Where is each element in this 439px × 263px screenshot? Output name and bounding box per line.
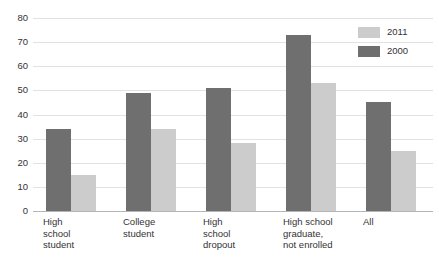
y-axis: 01020304050607080 [0, 18, 28, 211]
bar-2011 [391, 151, 416, 211]
x-axis-category-label: All [363, 216, 439, 228]
bar-2000 [286, 35, 311, 211]
x-axis: High school studentCollege studentHigh s… [33, 216, 433, 261]
bar-2011 [231, 143, 256, 211]
bar-2011 [311, 83, 336, 211]
axis-baseline [33, 211, 433, 212]
y-axis-tick-label: 10 [0, 182, 28, 192]
legend-item[interactable]: 2011 [358, 24, 436, 40]
x-axis-category-label: High school graduate, not enrolled [283, 216, 359, 251]
legend-swatch-icon [358, 46, 380, 57]
legend-item-label: 2011 [387, 27, 407, 37]
legend-item-label: 2000 [387, 46, 408, 56]
bar-chart: 01020304050607080 High school studentCol… [0, 0, 439, 263]
y-axis-tick-label: 20 [0, 158, 28, 168]
y-axis-tick-label: 30 [0, 134, 28, 144]
y-axis-tick-label: 80 [0, 13, 28, 23]
x-axis-category-label: High school student [43, 216, 119, 251]
y-axis-tick-label: 60 [0, 62, 28, 72]
bar-2000 [206, 88, 231, 211]
legend: 20112000 [358, 24, 436, 62]
bar-2000 [126, 93, 151, 211]
y-axis-tick-label: 0 [0, 206, 28, 216]
y-axis-tick-label: 40 [0, 110, 28, 120]
y-axis-tick-label: 50 [0, 86, 28, 96]
legend-swatch-icon [358, 27, 380, 38]
x-axis-category-label: College student [123, 216, 199, 239]
bar-2000 [46, 129, 71, 211]
legend-item[interactable]: 2000 [358, 43, 436, 59]
bar-2000 [366, 102, 391, 211]
x-axis-category-label: High school dropout [203, 216, 279, 251]
y-axis-tick-label: 70 [0, 37, 28, 47]
bar-2011 [151, 129, 176, 211]
bar-2011 [71, 175, 96, 211]
